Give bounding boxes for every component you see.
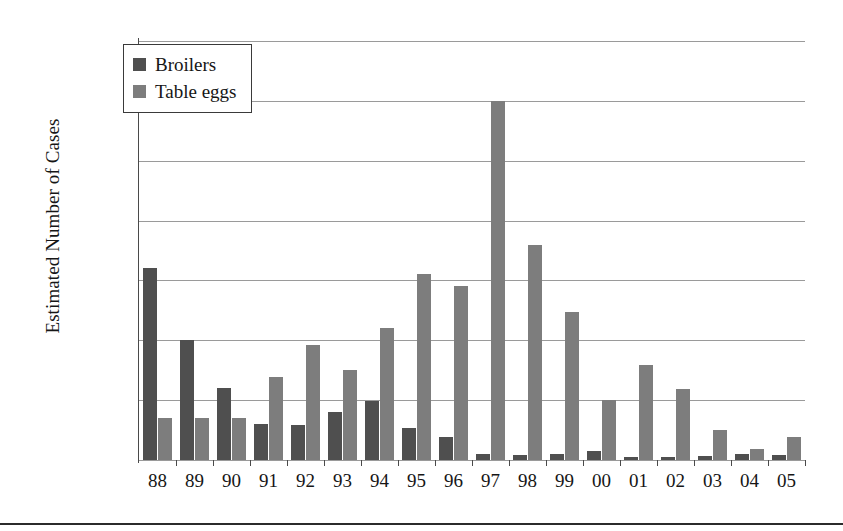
bar-group-01	[624, 41, 653, 460]
legend-label-table-eggs: Table eggs	[155, 81, 237, 103]
x-tick-mark-02	[694, 460, 695, 466]
bar-group-95	[402, 41, 431, 460]
x-tick-mark-01	[657, 460, 658, 466]
bar-group-04	[735, 41, 764, 460]
x-tick-label-98: 98	[508, 470, 548, 492]
bar-group-03	[698, 41, 727, 460]
bar-table-eggs-02	[676, 389, 690, 460]
x-tick-label-92: 92	[286, 470, 326, 492]
x-tick-label-01: 01	[619, 470, 659, 492]
bar-group-98	[513, 41, 542, 460]
bar-table-eggs-91	[269, 377, 283, 460]
legend-item-broilers: Broilers	[133, 51, 237, 78]
bar-table-eggs-88	[158, 418, 172, 460]
x-tick-label-93: 93	[323, 470, 363, 492]
bar-table-eggs-94	[380, 328, 394, 460]
legend-swatch-table-eggs-icon	[133, 85, 146, 98]
bar-broilers-88	[143, 268, 157, 460]
bar-table-eggs-03	[713, 430, 727, 460]
bar-table-eggs-99	[565, 312, 579, 460]
bar-group-05	[772, 41, 801, 460]
bar-table-eggs-00	[602, 400, 616, 460]
x-tick-label-96: 96	[434, 470, 474, 492]
bar-broilers-94	[365, 401, 379, 460]
x-tick-label-05: 05	[767, 470, 807, 492]
legend-item-table-eggs: Table eggs	[133, 78, 237, 105]
x-tick-mark-90	[250, 460, 251, 466]
bar-broilers-04	[735, 454, 749, 460]
bar-group-93	[328, 41, 357, 460]
bar-group-94	[365, 41, 394, 460]
x-tick-label-94: 94	[360, 470, 400, 492]
x-tick-label-91: 91	[249, 470, 289, 492]
x-tick-mark-89	[213, 460, 214, 466]
x-tick-label-02: 02	[656, 470, 696, 492]
bar-broilers-98	[513, 455, 527, 460]
bar-table-eggs-93	[343, 370, 357, 460]
bar-broilers-92	[291, 425, 305, 460]
legend-swatch-broilers-icon	[133, 58, 146, 71]
x-tick-label-88: 88	[138, 470, 178, 492]
x-tick-mark-98	[546, 460, 547, 466]
x-tick-mark-00	[620, 460, 621, 466]
bar-table-eggs-05	[787, 437, 801, 460]
x-tick-mark-88	[176, 460, 177, 466]
bar-table-eggs-92	[306, 345, 320, 460]
legend-label-broilers: Broilers	[155, 54, 216, 76]
x-tick-label-04: 04	[730, 470, 770, 492]
bar-table-eggs-95	[417, 274, 431, 460]
bar-broilers-05	[772, 455, 786, 460]
bar-group-00	[587, 41, 616, 460]
bar-group-96	[439, 41, 468, 460]
x-tick-mark-91	[287, 460, 288, 466]
bar-chart-figure: Estimated Number of Cases 05001000150020…	[0, 0, 843, 531]
bar-table-eggs-89	[195, 418, 209, 460]
bar-group-91	[254, 41, 283, 460]
bar-group-97	[476, 41, 505, 460]
x-tick-mark-93	[361, 460, 362, 466]
bar-group-99	[550, 41, 579, 460]
x-tick-mark-05	[805, 460, 806, 466]
bar-group-02	[661, 41, 690, 460]
bar-broilers-00	[587, 451, 601, 460]
x-tick-mark-03	[731, 460, 732, 466]
x-tick-mark-94	[398, 460, 399, 466]
bar-broilers-99	[550, 454, 564, 460]
bar-group-92	[291, 41, 320, 460]
bar-table-eggs-98	[528, 245, 542, 460]
x-tick-label-95: 95	[397, 470, 437, 492]
footer-divider	[0, 523, 843, 525]
chart-legend: Broilers Table eggs	[123, 44, 252, 113]
bar-broilers-97	[476, 454, 490, 460]
bar-table-eggs-96	[454, 286, 468, 460]
x-tick-mark-97	[509, 460, 510, 466]
bar-broilers-02	[661, 457, 675, 460]
bar-broilers-03	[698, 456, 712, 460]
y-axis-title: Estimated Number of Cases	[42, 61, 64, 391]
bar-broilers-01	[624, 457, 638, 460]
x-tick-label-89: 89	[175, 470, 215, 492]
bar-table-eggs-90	[232, 418, 246, 460]
x-tick-label-97: 97	[471, 470, 511, 492]
bar-broilers-95	[402, 428, 416, 460]
bar-table-eggs-04	[750, 449, 764, 460]
x-tick-mark-04	[768, 460, 769, 466]
x-tick-mark-99	[583, 460, 584, 466]
bar-broilers-89	[180, 340, 194, 460]
bar-broilers-96	[439, 437, 453, 460]
x-tick-label-03: 03	[693, 470, 733, 492]
x-tick-mark-96	[472, 460, 473, 466]
x-tick-label-90: 90	[212, 470, 252, 492]
x-tick-mark-92	[324, 460, 325, 466]
x-tick-mark-95	[435, 460, 436, 466]
x-tick-label-00: 00	[582, 470, 622, 492]
bar-table-eggs-01	[639, 365, 653, 460]
x-tick-label-99: 99	[545, 470, 585, 492]
bar-broilers-93	[328, 412, 342, 460]
bar-broilers-90	[217, 388, 231, 460]
bar-broilers-91	[254, 424, 268, 460]
bar-table-eggs-97	[491, 101, 505, 460]
